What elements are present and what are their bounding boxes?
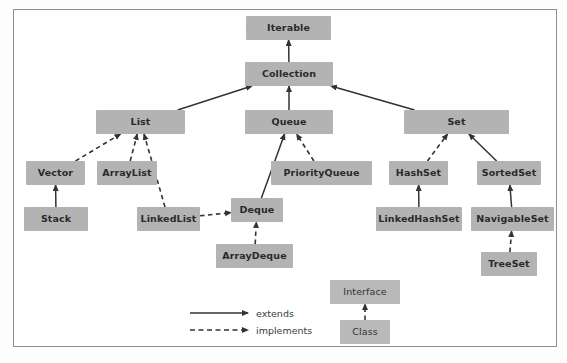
node-label: ArrayDeque	[222, 251, 286, 261]
node-label: NavigableSet	[476, 214, 549, 224]
node-set[interactable]: Set	[404, 110, 509, 134]
node-label: Set	[447, 117, 465, 127]
node-collection[interactable]: Collection	[245, 62, 333, 86]
node-interface_key[interactable]: Interface	[330, 280, 400, 304]
node-label: Vector	[38, 168, 73, 178]
node-label: TreeSet	[488, 259, 530, 269]
node-list[interactable]: List	[96, 110, 185, 134]
legend-implements-label: implements	[256, 325, 312, 336]
node-label: LinkedList	[141, 214, 197, 224]
node-linkedlist[interactable]: LinkedList	[137, 207, 200, 231]
node-sortedset[interactable]: SortedSet	[477, 161, 541, 185]
node-label: Interface	[343, 287, 386, 297]
node-priorityqueue[interactable]: PriorityQueue	[271, 161, 372, 185]
node-label: LinkedHashSet	[378, 214, 459, 224]
node-queue[interactable]: Queue	[245, 110, 333, 134]
node-class_key[interactable]: Class	[340, 320, 390, 344]
node-label: Collection	[262, 69, 316, 79]
node-label: HashSet	[396, 168, 441, 178]
node-vector[interactable]: Vector	[26, 161, 85, 185]
node-label: Iterable	[267, 23, 310, 33]
node-treeset[interactable]: TreeSet	[481, 252, 537, 276]
node-label: Deque	[240, 205, 275, 215]
node-hashset[interactable]: HashSet	[389, 161, 448, 185]
node-arraydeque[interactable]: ArrayDeque	[216, 244, 293, 268]
node-label: ArrayList	[102, 168, 151, 178]
node-label: Queue	[272, 117, 307, 127]
node-label: List	[131, 117, 151, 127]
node-linkedhashset[interactable]: LinkedHashSet	[376, 207, 462, 231]
legend-extends-label: extends	[256, 308, 294, 319]
node-stack[interactable]: Stack	[24, 207, 88, 231]
node-label: Stack	[41, 214, 71, 224]
node-iterable[interactable]: Iterable	[246, 16, 331, 40]
node-deque[interactable]: Deque	[231, 198, 283, 222]
node-label: SortedSet	[482, 168, 537, 178]
node-label: PriorityQueue	[284, 168, 360, 178]
diagram-canvas: IterableCollectionListQueueSetVectorArra…	[0, 0, 567, 363]
node-arraylist[interactable]: ArrayList	[97, 161, 157, 185]
node-label: Class	[352, 327, 378, 337]
node-navigableset[interactable]: NavigableSet	[471, 207, 554, 231]
